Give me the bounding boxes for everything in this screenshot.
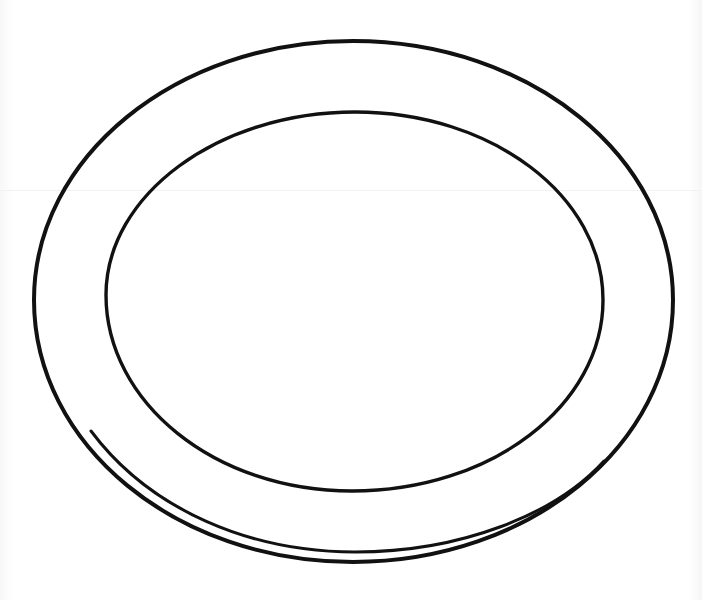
drawing-canvas — [0, 0, 702, 600]
plate-inner-well — [106, 112, 603, 491]
plate-illustration — [0, 0, 702, 600]
